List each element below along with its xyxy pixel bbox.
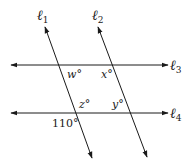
line-l1 — [45, 27, 92, 158]
line-l2 — [98, 27, 147, 157]
angle-x: x° — [101, 68, 113, 81]
label-l1: ℓ1 — [37, 7, 49, 25]
label-l4: ℓ4 — [170, 105, 182, 123]
angle-given-110: 110° — [52, 117, 79, 130]
angle-y: y° — [111, 98, 124, 111]
angle-w: w° — [67, 68, 82, 81]
label-l2: ℓ2 — [92, 7, 104, 25]
label-l3: ℓ3 — [170, 57, 182, 75]
geometry-diagram: ℓ1 ℓ2 ℓ3 ℓ4 w° x° z° y° 110° — [0, 0, 193, 165]
diagram-svg: ℓ1 ℓ2 ℓ3 ℓ4 w° x° z° y° 110° — [0, 0, 193, 165]
angle-z: z° — [78, 98, 90, 111]
